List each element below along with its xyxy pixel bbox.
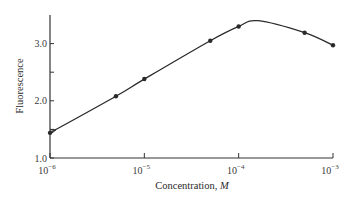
y-axis-ticks: 1.02.03.0 xyxy=(35,38,55,163)
data-point-marker xyxy=(114,94,118,98)
x-tick-label: 10−5 xyxy=(133,163,151,176)
x-tick-label: 10−3 xyxy=(321,163,339,176)
axes xyxy=(50,15,333,158)
fluorescence-chart: 1.02.03.0 10−610−510−410−3 Fluorescence … xyxy=(0,0,364,205)
data-point-marker xyxy=(331,43,335,47)
y-tick-label: 3.0 xyxy=(35,38,48,49)
data-point-marker xyxy=(302,31,306,35)
x-axis-title-unit: M xyxy=(219,180,230,191)
x-tick-label: 10−6 xyxy=(38,163,56,176)
x-axis-title-text: Concentration, xyxy=(155,180,220,191)
y-tick-label: 2.0 xyxy=(35,95,48,106)
series-line xyxy=(50,21,333,133)
data-point-marker xyxy=(208,39,212,43)
x-axis-ticks: 10−610−510−410−3 xyxy=(38,153,339,176)
y-axis-title: Fluorescence xyxy=(14,58,25,114)
data-point-marker xyxy=(236,24,240,28)
x-tick-label: 10−4 xyxy=(227,163,245,176)
data-series xyxy=(48,21,335,136)
y-tick-label: 1.0 xyxy=(35,153,48,164)
data-point-marker xyxy=(142,77,146,81)
x-axis-title: Concentration, M xyxy=(155,180,230,191)
